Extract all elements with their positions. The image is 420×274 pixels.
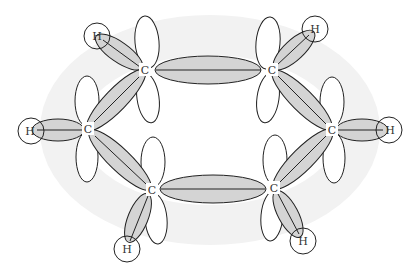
hydrogen-h1: H	[84, 23, 110, 49]
carbon-c2: C	[268, 64, 276, 77]
svg-text:H: H	[25, 125, 35, 138]
diagram-canvas: H H H H H H C C C C C C	[0, 0, 420, 274]
benzene-orbital-diagram: H H H H H H C C C C C C	[0, 0, 420, 274]
hydrogen-h2: H	[302, 16, 328, 42]
hydrogen-h4: H	[290, 228, 316, 254]
hydrogen-h6: H	[18, 118, 44, 144]
svg-text:H: H	[92, 30, 102, 43]
hydrogen-h3: H	[376, 117, 402, 143]
svg-text:H: H	[298, 235, 308, 248]
carbon-c3: C	[328, 124, 336, 137]
carbon-c6: C	[84, 123, 92, 136]
svg-text:H: H	[385, 124, 395, 137]
svg-text:H: H	[122, 243, 132, 256]
carbon-c4: C	[270, 182, 278, 195]
cc-sigma-bonds	[80, 56, 340, 203]
svg-text:H: H	[310, 23, 320, 36]
carbon-c1: C	[141, 64, 149, 77]
hydrogen-h5: H	[114, 236, 140, 262]
carbon-c5: C	[148, 184, 156, 197]
